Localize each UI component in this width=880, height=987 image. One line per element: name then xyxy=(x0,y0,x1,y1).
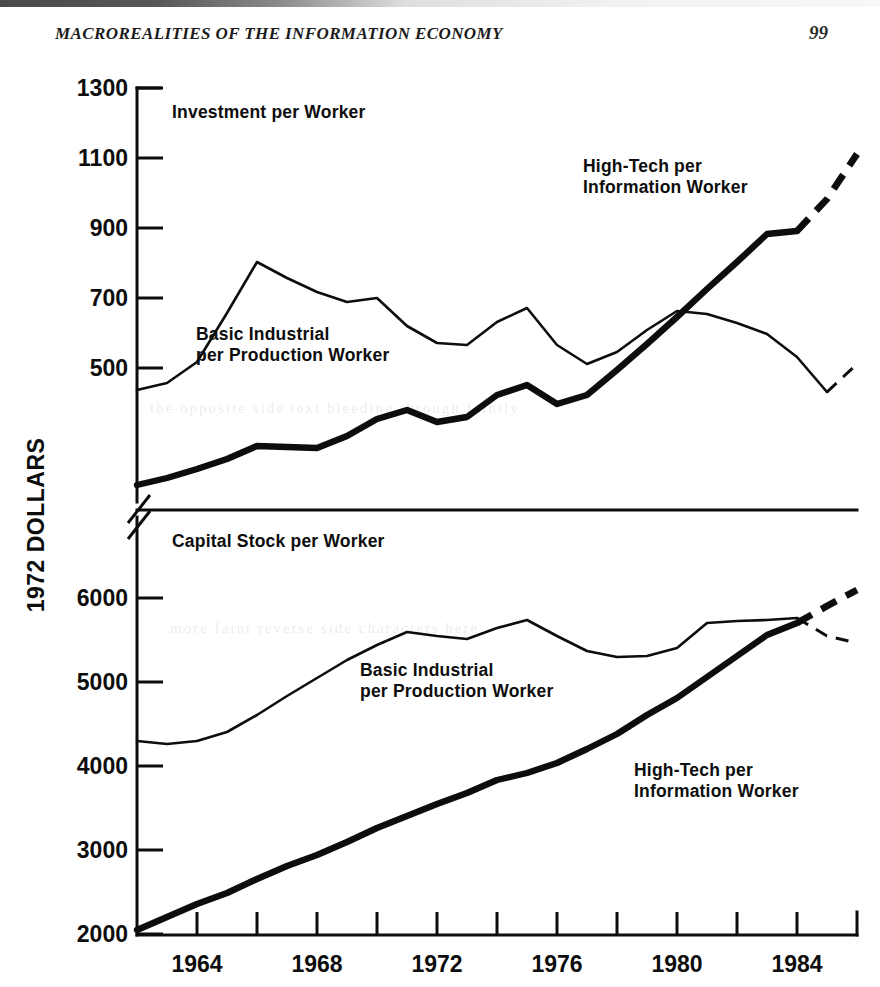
upper-panel-title: Investment per Worker xyxy=(172,102,366,122)
upper-label-hightech-line1: High-Tech per xyxy=(583,156,702,176)
lower-label-hightech-line2: Information Worker xyxy=(634,781,799,801)
upper-ylabel-500: 500 xyxy=(90,355,128,381)
lower-ylabel-6000: 6000 xyxy=(77,585,128,611)
running-head: MACROREALITIES OF THE INFORMATION ECONOM… xyxy=(55,24,503,44)
xlabel-1972: 1972 xyxy=(411,951,462,977)
figure-container: 1972 DOLLARS 1300 1100 900 700 500 xyxy=(0,55,880,987)
upper-label-basic-line2: per Production Worker xyxy=(196,345,390,365)
xlabel-1980: 1980 xyxy=(651,951,702,977)
lower-label-basic-line1: Basic Industrial xyxy=(360,660,494,680)
upper-ylabel-1100: 1100 xyxy=(78,145,128,171)
lower-label-hightech-line1: High-Tech per xyxy=(634,760,753,780)
axis-break-slash-2 xyxy=(128,511,150,539)
upper-series-high-tech-projection xyxy=(797,154,857,231)
lower-ylabel-4000: 4000 xyxy=(77,753,128,779)
y-axis-title-text: 1972 DOLLARS xyxy=(23,438,49,613)
upper-label-hightech-line2: Information Worker xyxy=(583,177,748,197)
lower-panel-title: Capital Stock per Worker xyxy=(172,531,385,551)
xlabel-1968: 1968 xyxy=(291,951,342,977)
lower-label-basic-line2: per Production Worker xyxy=(360,681,554,701)
xlabel-1976: 1976 xyxy=(531,951,582,977)
lower-ylabel-2000: 2000 xyxy=(77,921,128,947)
lower-panel: 6000 5000 4000 3000 2000 Capital Stock p… xyxy=(77,517,857,977)
two-panel-line-chart: 1972 DOLLARS 1300 1100 900 700 500 xyxy=(0,55,880,987)
upper-label-basic-line1: Basic Industrial xyxy=(196,324,330,344)
upper-series-basic-industrial-projection xyxy=(827,364,857,392)
y-axis-title: 1972 DOLLARS xyxy=(23,438,49,613)
book-page: the opposite side text bleeding through … xyxy=(0,0,880,987)
upper-ylabel-900: 900 xyxy=(90,215,128,241)
xlabel-1964: 1964 xyxy=(171,951,222,977)
upper-panel: 1300 1100 900 700 500 Investment per Wor… xyxy=(77,75,857,502)
lower-ylabel-5000: 5000 xyxy=(77,669,128,695)
upper-ylabel-700: 700 xyxy=(90,285,128,311)
page-number: 99 xyxy=(809,22,828,44)
lower-ylabel-3000: 3000 xyxy=(77,837,128,863)
xlabel-1984: 1984 xyxy=(771,951,822,977)
lower-series-high-tech-projection xyxy=(797,590,857,623)
upper-ylabel-1300: 1300 xyxy=(77,75,128,101)
